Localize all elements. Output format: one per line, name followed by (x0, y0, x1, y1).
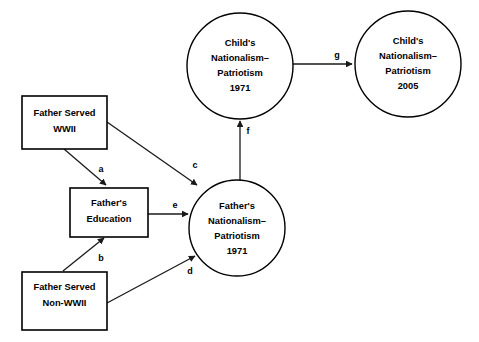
path-b-label: b (98, 253, 104, 263)
path-g: g (293, 50, 352, 64)
node-fathers-nationalism-1971-line-3: Patriotism (214, 231, 259, 241)
node-childs-nationalism-1971[interactable]: Child's Nationalism– Patriotism 1971 (187, 13, 293, 119)
path-diagram-canvas: a b c d e f g (0, 0, 479, 342)
path-e-label: e (172, 200, 177, 210)
path-a: a (64, 149, 106, 185)
node-fathers-nationalism-1971-line-4: 1971 (227, 246, 248, 256)
node-father-served-wwii-line-2: WWII (53, 124, 76, 134)
node-childs-nationalism-1971-circle (187, 13, 293, 119)
node-childs-nationalism-1971-line-4: 1971 (230, 83, 251, 93)
node-childs-nationalism-1971-line-3: Patriotism (217, 68, 262, 78)
path-g-label: g (334, 50, 340, 60)
node-fathers-nationalism-1971-line-1: Father's (219, 201, 255, 211)
node-fathers-nationalism-1971[interactable]: Father's Nationalism– Patriotism 1971 (189, 180, 285, 276)
path-c-line (107, 122, 197, 185)
path-e: e (148, 200, 188, 214)
path-b: b (63, 238, 104, 271)
node-fathers-education[interactable]: Father's Education (70, 188, 148, 237)
path-c: c (107, 122, 198, 185)
node-fathers-education-line-2: Education (87, 214, 132, 224)
path-d-label: d (187, 266, 193, 276)
node-fathers-education-line-1: Father's (91, 198, 127, 208)
node-father-served-wwii-line-1: Father Served (33, 108, 95, 118)
path-f-label: f (247, 126, 251, 136)
path-d: d (107, 256, 195, 303)
node-fathers-nationalism-1971-line-2: Nationalism– (208, 216, 266, 226)
node-father-served-non-wwii[interactable]: Father Served Non-WWII (22, 272, 107, 330)
path-diagram-svg: a b c d e f g (0, 0, 479, 342)
node-father-served-non-wwii-line-1: Father Served (33, 282, 95, 292)
node-childs-nationalism-2005-line-4: 2005 (398, 81, 419, 91)
node-childs-nationalism-1971-line-1: Child's (225, 38, 256, 48)
node-childs-nationalism-2005[interactable]: Child's Nationalism– Patriotism 2005 (355, 11, 461, 117)
node-childs-nationalism-2005-line-3: Patriotism (385, 66, 430, 76)
node-childs-nationalism-2005-line-1: Child's (393, 36, 424, 46)
node-fathers-nationalism-1971-circle (189, 180, 285, 276)
path-d-line (107, 256, 195, 303)
node-childs-nationalism-2005-circle (355, 11, 461, 117)
path-a-label: a (98, 164, 104, 174)
path-f: f (240, 121, 251, 180)
node-childs-nationalism-1971-line-2: Nationalism– (211, 53, 269, 63)
path-c-label: c (192, 160, 197, 170)
node-fathers-education-box (70, 188, 148, 237)
node-father-served-wwii-box (22, 96, 107, 149)
node-childs-nationalism-2005-line-2: Nationalism– (379, 51, 437, 61)
node-father-served-non-wwii-line-2: Non-WWII (43, 298, 87, 308)
node-father-served-wwii[interactable]: Father Served WWII (22, 96, 107, 149)
